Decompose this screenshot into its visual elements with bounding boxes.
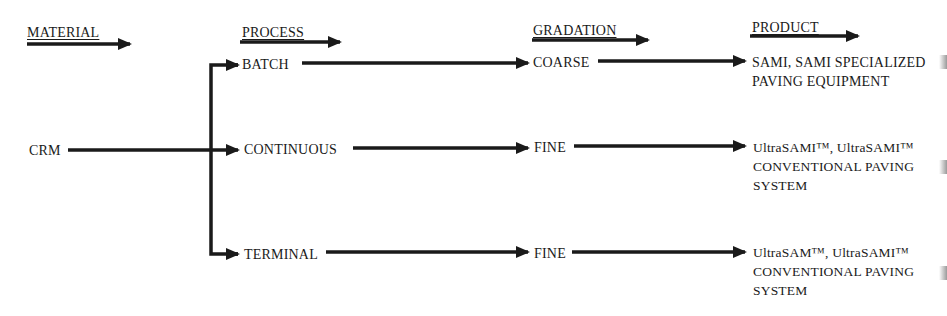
header-gradation: GRADATION: [533, 22, 616, 39]
scan-edge-shadow: [939, 160, 947, 174]
process-batch: BATCH: [242, 56, 289, 73]
material-crm: CRM: [29, 142, 61, 159]
product-ultrasami-terminal: UltraSAM™, UltraSAMI™ CONVENTIONAL PAVIN…: [753, 243, 914, 300]
scan-edge-shadow: [939, 266, 947, 280]
process-terminal: TERMINAL: [244, 246, 318, 263]
product-sami: SAMI, SAMI SPECIALIZED PAVING EQUIPMENT: [752, 53, 926, 91]
scan-edge-shadow: [939, 55, 947, 69]
gradation-coarse: COARSE: [533, 54, 589, 71]
product-ultrasami-continuous: UltraSAMI™, UltraSAMI™ CONVENTIONAL PAVI…: [753, 138, 914, 195]
branch-line: [211, 65, 238, 254]
process-continuous: CONTINUOUS: [244, 141, 337, 158]
gradation-fine-2: FINE: [534, 245, 566, 262]
header-material: MATERIAL: [27, 24, 99, 41]
header-process: PROCESS: [242, 24, 304, 41]
gradation-fine-1: FINE: [534, 139, 566, 156]
header-product: PRODUCT: [752, 19, 819, 36]
